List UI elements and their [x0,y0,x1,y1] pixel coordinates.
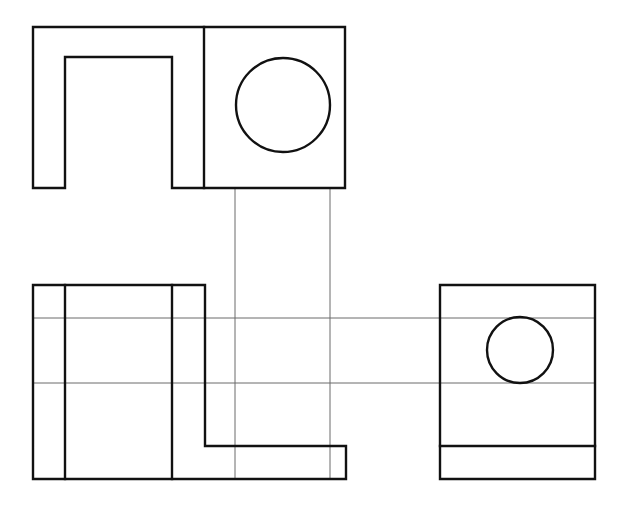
front-view [33,285,346,479]
front-view-outline [33,285,346,479]
drawing-sheet [0,0,629,509]
right-side-view [440,285,595,479]
top-view-outline [33,27,345,188]
top-view [33,27,345,188]
right-view-hole-circle [487,317,553,383]
drawing-canvas [0,0,629,509]
top-view-hole-circle [236,58,330,152]
projection-line-group [33,188,595,479]
